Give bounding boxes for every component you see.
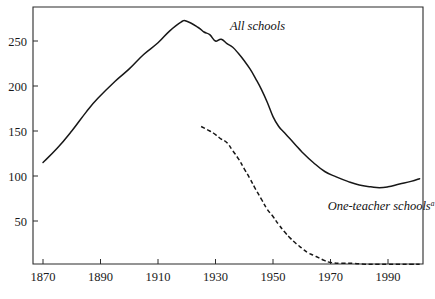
- y-tick-label-150: 150: [8, 125, 27, 139]
- x-tick-label-1870: 1870: [31, 270, 56, 284]
- y-tick-label-250: 250: [8, 35, 27, 49]
- x-tick-label-1930: 1930: [203, 270, 228, 284]
- all-schools-label-text: All schools: [229, 19, 285, 33]
- x-tick-label-1970: 1970: [318, 270, 343, 284]
- y-tick-label-200: 200: [8, 80, 27, 94]
- chart-figure: 50100150200250 1870189019101930195019701…: [0, 0, 435, 299]
- x-tick-label-1990: 1990: [376, 270, 401, 284]
- x-tick-label-1890: 1890: [88, 270, 113, 284]
- y-tick-label-50: 50: [15, 215, 28, 229]
- one-teacher-schools-label: One-teacher schoolsa: [328, 199, 435, 213]
- x-tick-label-1910: 1910: [146, 270, 171, 284]
- x-tick-label-1950: 1950: [261, 270, 286, 284]
- all-schools-label: All schools: [229, 19, 285, 33]
- chart-background: [0, 0, 435, 299]
- y-tick-label-100: 100: [8, 170, 27, 184]
- one-teacher-schools-label-text: One-teacher schools: [328, 199, 431, 213]
- one-teacher-schools-label-footnote-marker: a: [431, 199, 435, 208]
- line-chart: 50100150200250 1870189019101930195019701…: [0, 0, 435, 299]
